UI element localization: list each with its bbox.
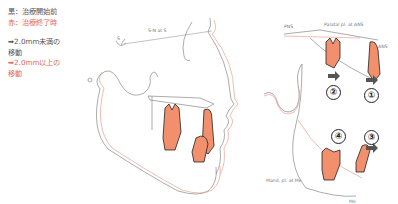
label-sn: S-N at S xyxy=(148,28,166,33)
marker-3: ③ xyxy=(364,130,379,145)
marker-4: ④ xyxy=(331,129,346,144)
label-me: Me xyxy=(349,199,356,204)
label-ans: ANS xyxy=(378,44,388,49)
label-palatal: Palatal pl. at ANS xyxy=(324,22,364,27)
label-s: S xyxy=(117,36,120,41)
label-mand: Mand. pl. at Me xyxy=(266,178,302,183)
cephalometric-tracing xyxy=(0,0,398,204)
label-pns: PNS xyxy=(284,24,293,29)
marker-2: ② xyxy=(326,85,341,100)
marker-1: ① xyxy=(364,88,379,103)
